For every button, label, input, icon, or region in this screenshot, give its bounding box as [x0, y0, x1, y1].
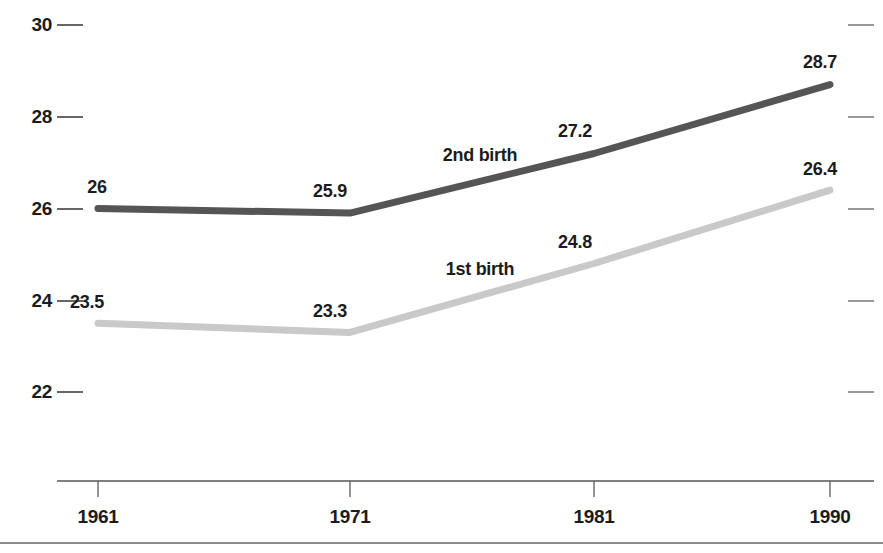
x-axis-label-1990: 1990 [785, 506, 875, 528]
line-chart: 30 28 26 24 22 1961 1971 1981 1990 26 25… [0, 0, 883, 553]
data-label-2nd-birth-1961: 26 [62, 177, 132, 198]
data-label-1st-birth-1961: 23.5 [52, 292, 122, 313]
data-label-1st-birth-1981: 24.8 [540, 232, 610, 253]
data-label-2nd-birth-1990: 28.7 [785, 52, 855, 73]
series-label-2nd-birth: 2nd birth [415, 145, 545, 166]
x-axis-label-1981: 1981 [549, 506, 639, 528]
data-label-2nd-birth-1981: 27.2 [540, 121, 610, 142]
y-axis-label-24: 24 [8, 290, 52, 312]
y-axis-ticks-right [848, 25, 874, 392]
y-axis-label-28: 28 [8, 106, 52, 128]
y-axis-label-30: 30 [8, 14, 52, 36]
x-axis-label-1971: 1971 [305, 506, 395, 528]
x-axis-ticks [98, 481, 830, 497]
y-axis-label-26: 26 [8, 198, 52, 220]
data-label-2nd-birth-1971: 25.9 [295, 181, 365, 202]
x-axis-label-1961: 1961 [53, 506, 143, 528]
data-label-1st-birth-1990: 26.4 [785, 159, 855, 180]
data-label-1st-birth-1971: 23.3 [295, 301, 365, 322]
y-axis-label-22: 22 [8, 381, 52, 403]
y-axis-ticks-left [57, 25, 83, 392]
series-label-1st-birth: 1st birth [415, 259, 545, 280]
